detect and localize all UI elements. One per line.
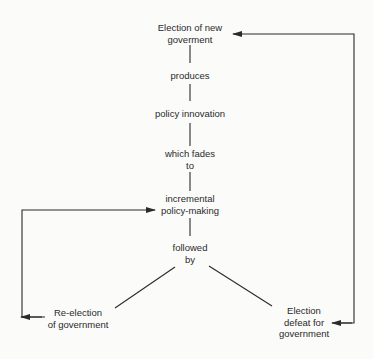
node-text: Election of new (158, 22, 222, 34)
node-produces: produces (170, 70, 209, 82)
node-election-defeat-for-government: Election defeat for government (279, 305, 329, 340)
loop-arrow-defeat (233, 34, 354, 323)
node-text: of government (48, 319, 109, 331)
node-text: policy-making (161, 205, 219, 217)
node-text: Re-election (48, 307, 109, 319)
node-incremental-policy-making: incremental policy-making (161, 193, 219, 216)
node-followed-by: followed by (173, 242, 208, 265)
edge-to-defeat (209, 266, 272, 306)
node-text: to (165, 160, 215, 172)
node-which-fades-to: which fades to (165, 148, 215, 171)
node-text: produces (170, 70, 209, 82)
node-text: followed (173, 242, 208, 254)
node-policy-innovation: policy innovation (155, 108, 225, 120)
diagram-canvas: Election of new goverment produces polic… (0, 0, 373, 359)
node-text: government (279, 328, 329, 340)
node-text: defeat for (279, 317, 329, 329)
node-text: by (173, 254, 208, 266)
node-text: which fades (165, 148, 215, 160)
loop-arrow-reelection (22, 210, 155, 317)
edge-to-reelection (115, 267, 175, 308)
node-text: goverment (158, 34, 222, 46)
node-text: Election (279, 305, 329, 317)
node-text: policy innovation (155, 108, 225, 120)
node-text: incremental (161, 193, 219, 205)
node-reelection-of-government: Re-election of government (48, 307, 109, 330)
node-election-of-new-government: Election of new goverment (158, 22, 222, 45)
